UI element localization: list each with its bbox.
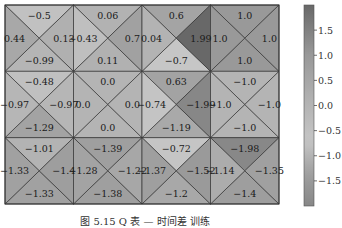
- value-label-top: −1.01: [25, 143, 54, 154]
- value-label-bottom: −1.29: [25, 122, 54, 133]
- value-label-left: 1.0: [213, 33, 228, 44]
- value-label-bottom: 1.0: [237, 55, 252, 66]
- value-label-right: −1.35: [255, 165, 284, 176]
- value-label-left: −1.33: [0, 165, 29, 176]
- value-label-top: −1.39: [93, 143, 122, 154]
- value-label-left: −0.97: [0, 99, 29, 110]
- colorbar-tick-label: 1.0: [318, 50, 333, 61]
- value-label-bottom: 0.11: [97, 55, 118, 66]
- value-label-top: −0.48: [25, 76, 54, 87]
- value-label-left: 0.0: [76, 99, 91, 110]
- value-label-right: 0.7: [125, 33, 140, 44]
- value-label-top: 0.6: [169, 10, 184, 21]
- value-label-left: 0.04: [141, 33, 162, 44]
- figure-caption: 图 5.15 Q 表 — 时间差 训练: [0, 213, 290, 228]
- value-label-top: −0.5: [28, 10, 51, 21]
- value-label-top: 1.0: [237, 10, 252, 21]
- value-label-right: −0.97: [49, 99, 78, 110]
- value-label-top: −1.98: [230, 143, 259, 154]
- colorbar-tick-label: 0.0: [318, 100, 333, 111]
- colorbar: 1.51.00.50.0−0.5−1.0−1.5: [304, 5, 341, 206]
- value-label-top: 0.06: [97, 10, 118, 21]
- value-label-left: 0.44: [4, 33, 25, 44]
- value-label-bottom: 0.0: [100, 122, 115, 133]
- value-label-top: −0.72: [162, 143, 191, 154]
- value-label-bottom: −1.2: [165, 188, 188, 199]
- value-label-left: −1.0: [209, 99, 232, 110]
- value-label-bottom: −1.33: [25, 188, 54, 199]
- value-label-bottom: −1.19: [162, 122, 191, 133]
- value-label-left: −1.37: [137, 165, 166, 176]
- value-label-bottom: −1.38: [93, 188, 122, 199]
- value-label-right: 1.99: [190, 33, 211, 44]
- value-label-right: 1.0: [262, 33, 277, 44]
- colorbar-tick-label: −1.0: [318, 150, 341, 161]
- value-label-top: 0.63: [166, 76, 187, 87]
- heatmap-chart: −0.5−0.990.440.130.060.11−0.430.70.6−0.7…: [0, 0, 342, 228]
- value-label-top: −1.0: [233, 76, 256, 87]
- colorbar-tick-label: −1.5: [318, 175, 341, 186]
- value-label-bottom: −0.99: [25, 55, 54, 66]
- colorbar-bar: [304, 5, 314, 206]
- value-label-right: −1.0: [258, 99, 281, 110]
- value-label-bottom: −0.7: [165, 55, 188, 66]
- value-label-left: −0.43: [69, 33, 98, 44]
- value-label-bottom: −1.0: [233, 122, 256, 133]
- value-label-bottom: −1.4: [233, 188, 256, 199]
- value-label-left: −1.28: [69, 165, 98, 176]
- value-label-top: 0.0: [100, 76, 115, 87]
- colorbar-tick-label: 0.5: [318, 75, 333, 86]
- value-label-left: −1.14: [206, 165, 235, 176]
- colorbar-tick-label: −0.5: [318, 125, 341, 136]
- colorbar-tick-label: 1.5: [318, 25, 333, 36]
- value-label-left: −0.74: [137, 99, 166, 110]
- colorbar-ticks: 1.51.00.50.0−0.5−1.0−1.5: [314, 25, 341, 187]
